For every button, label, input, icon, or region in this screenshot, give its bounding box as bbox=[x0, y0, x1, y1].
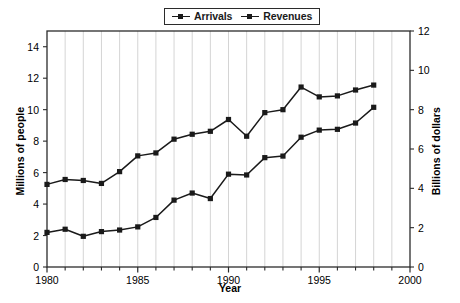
data-point-arrivals bbox=[317, 128, 322, 133]
data-point-arrivals bbox=[335, 127, 340, 132]
data-point-revenues bbox=[371, 82, 376, 87]
data-point-arrivals bbox=[171, 198, 176, 203]
y-axis-right-tick-label: 8 bbox=[418, 105, 448, 116]
data-point-arrivals bbox=[280, 153, 285, 158]
y-axis-left-tick-label: 6 bbox=[5, 168, 39, 179]
data-point-arrivals bbox=[190, 190, 195, 195]
y-axis-right-tick-label: 2 bbox=[418, 223, 448, 234]
chart-plot-area bbox=[0, 0, 460, 303]
chart-figure: Arrivals Revenues Millions of people Bil… bbox=[0, 0, 460, 303]
data-point-arrivals bbox=[208, 196, 213, 201]
y-axis-right-tick-label: 0 bbox=[418, 262, 448, 273]
data-point-arrivals bbox=[353, 120, 358, 125]
y-axis-left-tick-label: 0 bbox=[5, 262, 39, 273]
data-point-arrivals bbox=[135, 224, 140, 229]
data-point-revenues bbox=[262, 110, 267, 115]
y-axis-right-tick-label: 6 bbox=[418, 144, 448, 155]
data-point-arrivals bbox=[299, 135, 304, 140]
data-point-revenues bbox=[335, 93, 340, 98]
legend-label-revenues: Revenues bbox=[263, 11, 312, 22]
data-point-revenues bbox=[135, 153, 140, 158]
data-point-revenues bbox=[44, 182, 49, 187]
y-axis-left-tick-label: 8 bbox=[5, 136, 39, 147]
y-axis-left-tick-label: 10 bbox=[5, 105, 39, 116]
legend-entry-arrivals: Arrivals bbox=[172, 11, 232, 22]
y-axis-left-tick-label: 4 bbox=[5, 199, 39, 210]
line-marker-icon bbox=[241, 13, 259, 20]
data-point-revenues bbox=[299, 84, 304, 89]
data-point-arrivals bbox=[99, 229, 104, 234]
x-axis-tick-label: 2000 bbox=[385, 275, 435, 286]
data-point-revenues bbox=[208, 129, 213, 134]
data-point-revenues bbox=[153, 150, 158, 155]
chart-legend: Arrivals Revenues bbox=[164, 8, 320, 25]
data-point-revenues bbox=[226, 117, 231, 122]
data-point-revenues bbox=[117, 169, 122, 174]
data-point-revenues bbox=[99, 181, 104, 186]
x-axis-tick-label: 1990 bbox=[204, 275, 254, 286]
data-point-revenues bbox=[317, 94, 322, 99]
data-point-revenues bbox=[171, 137, 176, 142]
x-axis-tick-label: 1980 bbox=[22, 275, 72, 286]
data-point-arrivals bbox=[44, 230, 49, 235]
data-point-revenues bbox=[280, 107, 285, 112]
data-point-revenues bbox=[81, 178, 86, 183]
line-marker-icon bbox=[172, 13, 190, 20]
y-axis-left-tick-label: 12 bbox=[5, 73, 39, 84]
x-axis-tick-label: 1985 bbox=[113, 275, 163, 286]
y-axis-left-tick-label: 14 bbox=[5, 42, 39, 53]
y-axis-right-tick-label: 10 bbox=[418, 65, 448, 76]
legend-entry-revenues: Revenues bbox=[241, 11, 312, 22]
legend-label-arrivals: Arrivals bbox=[194, 11, 232, 22]
data-point-arrivals bbox=[63, 227, 68, 232]
y-axis-right-tick-label: 12 bbox=[418, 26, 448, 37]
data-point-arrivals bbox=[371, 105, 376, 110]
y-axis-left-tick-label: 2 bbox=[5, 231, 39, 242]
data-point-revenues bbox=[63, 177, 68, 182]
data-point-arrivals bbox=[226, 172, 231, 177]
data-point-revenues bbox=[353, 87, 358, 92]
data-point-arrivals bbox=[117, 227, 122, 232]
data-point-arrivals bbox=[81, 234, 86, 239]
data-point-revenues bbox=[190, 132, 195, 137]
y-axis-right-tick-label: 4 bbox=[418, 183, 448, 194]
data-point-arrivals bbox=[262, 155, 267, 160]
data-point-revenues bbox=[244, 134, 249, 139]
data-point-arrivals bbox=[244, 172, 249, 177]
data-point-arrivals bbox=[153, 215, 158, 220]
x-axis-tick-label: 1995 bbox=[294, 275, 344, 286]
